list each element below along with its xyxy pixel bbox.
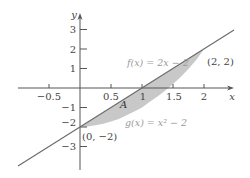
label-f: f(x) = 2x − 2 <box>126 57 189 68</box>
y-tick-label-one: 1 <box>70 63 76 74</box>
graph-canvas: −0.5 0.5 1 1.5 2 x 3 2 1 −1 −2 −3 y f(x)… <box>0 0 250 178</box>
x-ticks <box>49 84 204 88</box>
x-tick-label-one-half: 1.5 <box>166 91 182 102</box>
x-tick-label-two: 2 <box>201 91 207 102</box>
x-tick-label-one: 1 <box>140 91 146 102</box>
label-point-end: (2, 2) <box>207 56 234 67</box>
y-tick-label-neg-one: −1 <box>61 102 76 113</box>
label-point-origin: (0, −2) <box>82 131 117 142</box>
y-tick-label-three: 3 <box>70 24 76 35</box>
label-g: g(x) = x² − 2 <box>125 117 187 128</box>
x-tick-label-half: 0.5 <box>103 91 119 102</box>
x-axis-name: x <box>229 91 235 102</box>
y-axis-name: y <box>70 9 77 20</box>
y-tick-label-two: 2 <box>70 44 76 55</box>
label-region-a: A <box>119 99 127 110</box>
y-tick-label-neg-two: −2 <box>61 117 76 128</box>
y-tick-label-neg-three: −3 <box>61 141 76 152</box>
x-tick-label-neg-half: −0.5 <box>37 91 61 102</box>
